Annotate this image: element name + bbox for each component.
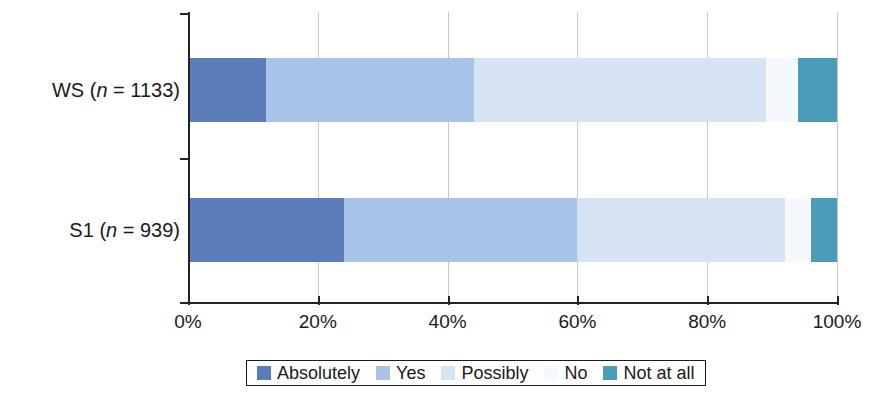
bar-segment-yes (266, 58, 474, 122)
category-axis-tick-top (180, 13, 189, 15)
value-axis-label: 100% (792, 310, 882, 333)
legend: AbsolutelyYesPossiblyNoNot at all (246, 360, 706, 386)
value-axis-line (188, 302, 839, 304)
legend-swatch-icon (376, 366, 390, 380)
bar-row (188, 198, 837, 262)
legend-swatch-icon (544, 366, 558, 380)
legend-label: Absolutely (277, 363, 360, 383)
legend-label: No (564, 363, 587, 383)
bar-segment-no (785, 198, 811, 262)
value-axis-label: 80% (662, 310, 752, 333)
bar-segment-no (766, 58, 798, 122)
value-axis-tick-100 (837, 296, 839, 305)
category-label: WS (n = 1133) (0, 78, 180, 102)
legend-swatch-icon (441, 366, 455, 380)
category-axis-tick-middle (180, 158, 189, 160)
legend-label: Yes (396, 363, 425, 383)
value-axis-tick-0 (188, 296, 190, 305)
legend-item-possibly[interactable]: Possibly (441, 363, 528, 383)
bar-segment-not-at-all (811, 198, 837, 262)
value-axis-tick-60 (577, 296, 579, 305)
category-label: S1 (n = 939) (0, 218, 180, 242)
gridline-100 (837, 12, 838, 302)
legend-item-not-at-all[interactable]: Not at all (603, 363, 694, 383)
value-axis-label: 40% (403, 310, 493, 333)
value-axis-tick-20 (318, 296, 320, 305)
bar-row (188, 58, 837, 122)
legend-item-yes[interactable]: Yes (376, 363, 425, 383)
legend-swatch-icon (603, 366, 617, 380)
legend-label: Not at all (623, 363, 694, 383)
legend-label: Possibly (461, 363, 528, 383)
bar-segment-not-at-all (798, 58, 837, 122)
bar-segment-possibly (474, 58, 766, 122)
value-axis-label: 0% (143, 310, 233, 333)
value-axis-label: 60% (532, 310, 622, 333)
bar-segment-absolutely (188, 198, 344, 262)
bar-segment-absolutely (188, 58, 266, 122)
legend-item-no[interactable]: No (544, 363, 587, 383)
legend-item-absolutely[interactable]: Absolutely (257, 363, 360, 383)
legend-swatch-icon (257, 366, 271, 380)
value-axis-tick-40 (448, 296, 450, 305)
value-axis-tick-80 (707, 296, 709, 305)
stacked-bar-chart: WS (n = 1133)S1 (n = 939) 0%20%40%60%80%… (0, 0, 891, 418)
bar-segment-possibly (577, 198, 785, 262)
bar-segment-yes (344, 198, 578, 262)
value-axis-label: 20% (273, 310, 363, 333)
